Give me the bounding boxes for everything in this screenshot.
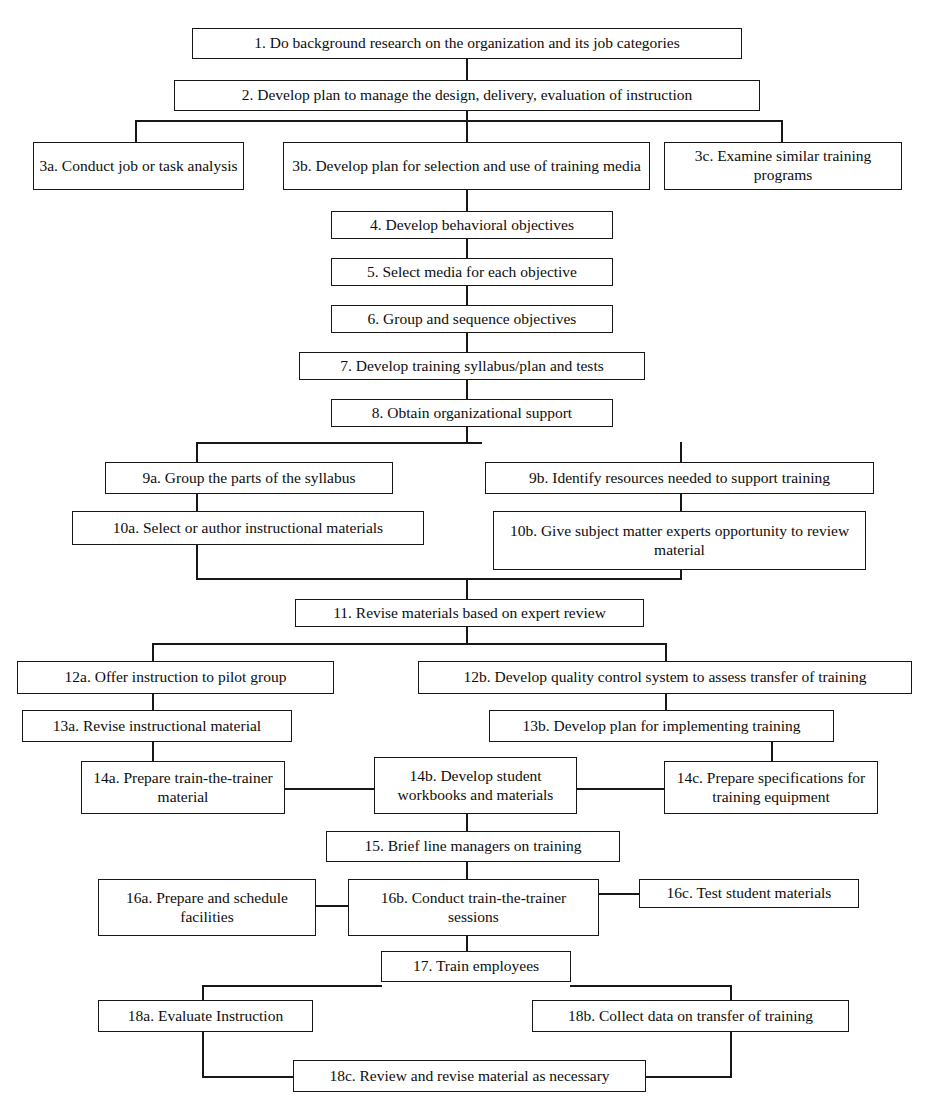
connector-17-left-arm [202, 985, 382, 987]
node-14b-label: 14b. Develop student workbooks and mater… [380, 767, 571, 805]
node-15[interactable]: 15. Brief line managers on training [326, 831, 620, 862]
connector-bus-to-12b [665, 643, 667, 661]
node-15-label: 15. Brief line managers on training [332, 837, 614, 856]
node-18b[interactable]: 18b. Collect data on transfer of trainin… [532, 1000, 849, 1032]
node-14a[interactable]: 14a. Prepare train-the-trainer material [81, 761, 285, 814]
node-10b[interactable]: 10b. Give subject matter experts opportu… [493, 511, 866, 570]
node-16b-label: 16b. Conduct train-the-trainer sessions [354, 889, 593, 927]
connector-3row-bus [135, 120, 783, 122]
node-7-label: 7. Develop training syllabus/plan and te… [305, 357, 639, 376]
connector-14b-to-15 [466, 814, 468, 831]
node-16b[interactable]: 16b. Conduct train-the-trainer sessions [348, 879, 599, 936]
connector-11-drop [466, 627, 468, 643]
node-9a-label: 9a. Group the parts of the syllabus [111, 469, 387, 488]
node-3c-label: 3c. Examine similar training programs [670, 147, 896, 185]
node-14b[interactable]: 14b. Develop student workbooks and mater… [374, 757, 577, 814]
node-18c[interactable]: 18c. Review and revise material as neces… [293, 1060, 646, 1092]
connector-2-drop [466, 110, 468, 120]
node-6[interactable]: 6. Group and sequence objectives [331, 305, 613, 333]
connector-left-to-18c [202, 1076, 293, 1078]
node-18a[interactable]: 18a. Evaluate Instruction [98, 1000, 313, 1032]
node-2[interactable]: 2. Develop plan to manage the design, de… [174, 80, 760, 111]
connector-3b-to-4 [466, 190, 468, 211]
node-9b[interactable]: 9b. Identify resources needed to support… [485, 462, 874, 494]
connector-bus-to-3a [135, 120, 137, 142]
node-9b-label: 9b. Identify resources needed to support… [491, 469, 868, 488]
node-12b[interactable]: 12b. Develop quality control system to a… [418, 661, 912, 694]
node-14c[interactable]: 14c. Prepare specifications for training… [664, 761, 878, 814]
node-2-label: 2. Develop plan to manage the design, de… [180, 86, 754, 105]
connector-bus-to-11 [466, 578, 468, 599]
node-13a[interactable]: 13a. Revise instructional material [22, 710, 292, 742]
connector-15-to-16b [466, 862, 468, 879]
connector-10a-down [196, 545, 198, 578]
node-1-label: 1. Do background research on the organiz… [198, 34, 736, 53]
node-8[interactable]: 8. Obtain organizational support [331, 399, 613, 427]
connector-6-to-7 [466, 332, 468, 352]
connector-bus-to-3b [466, 120, 468, 142]
connector-bus-to-12a [152, 643, 154, 661]
connector-1-to-2 [466, 59, 468, 80]
node-1[interactable]: 1. Do background research on the organiz… [192, 28, 742, 59]
connector-12row-bus [152, 643, 666, 645]
node-3a[interactable]: 3a. Conduct job or task analysis [33, 142, 244, 190]
connector-17-right-arm [570, 985, 731, 987]
node-9a[interactable]: 9a. Group the parts of the syllabus [105, 462, 393, 494]
node-16a[interactable]: 16a. Prepare and schedule facilities [98, 879, 316, 936]
node-16a-label: 16a. Prepare and schedule facilities [104, 889, 310, 927]
node-5-label: 5. Select media for each objective [337, 263, 607, 282]
node-3b-label: 3b. Develop plan for selection and use o… [289, 157, 644, 176]
connector-right-to-18c [645, 1076, 732, 1078]
node-16c[interactable]: 16c. Test student materials [639, 879, 859, 908]
node-18b-label: 18b. Collect data on transfer of trainin… [538, 1007, 843, 1026]
node-3a-label: 3a. Conduct job or task analysis [39, 157, 238, 176]
node-14c-label: 14c. Prepare specifications for training… [670, 769, 872, 807]
node-18a-label: 18a. Evaluate Instruction [104, 1007, 307, 1026]
connector-8-drop [466, 426, 468, 442]
connector-9row-bus [196, 442, 482, 444]
node-7[interactable]: 7. Develop training syllabus/plan and te… [299, 352, 645, 380]
connector-bus-to-9b [680, 442, 682, 462]
connector-13a-to-14a [152, 742, 154, 761]
node-11[interactable]: 11. Revise materials based on expert rev… [295, 599, 644, 627]
node-16c-label: 16c. Test student materials [645, 884, 853, 903]
connector-bus-to-9a [196, 442, 198, 462]
node-12a-label: 12a. Offer instruction to pilot group [23, 668, 328, 687]
node-17[interactable]: 17. Train employees [381, 951, 571, 982]
node-8-label: 8. Obtain organizational support [337, 404, 607, 423]
node-13a-label: 13a. Revise instructional material [28, 717, 286, 736]
flowchart-canvas: 1. Do background research on the organiz… [0, 0, 934, 1104]
node-3c[interactable]: 3c. Examine similar training programs [664, 142, 902, 190]
connector-13b-to-14c [771, 742, 773, 761]
connector-16b-to-16c [598, 893, 640, 895]
connector-12a-to-13a [152, 694, 154, 710]
connector-10b-down [680, 570, 682, 578]
connector-7-to-8 [466, 379, 468, 399]
node-17-label: 17. Train employees [387, 957, 565, 976]
connector-12b-to-13b [665, 694, 667, 710]
connector-14b-to-14c [576, 788, 665, 790]
connector-16a-to-16b [315, 905, 350, 907]
node-4-label: 4. Develop behavioral objectives [337, 216, 607, 235]
node-12b-label: 12b. Develop quality control system to a… [424, 668, 906, 687]
connector-16b-to-17 [466, 936, 468, 951]
connector-bus-to-3c [781, 120, 783, 142]
node-3b[interactable]: 3b. Develop plan for selection and use o… [283, 142, 650, 190]
node-12a[interactable]: 12a. Offer instruction to pilot group [17, 661, 334, 694]
node-5[interactable]: 5. Select media for each objective [331, 258, 613, 286]
node-14a-label: 14a. Prepare train-the-trainer material [87, 769, 279, 807]
node-6-label: 6. Group and sequence objectives [337, 310, 607, 329]
node-18c-label: 18c. Review and revise material as neces… [299, 1067, 640, 1086]
connector-11-merge-bus [196, 578, 682, 580]
node-4[interactable]: 4. Develop behavioral objectives [331, 211, 613, 239]
node-10b-label: 10b. Give subject matter experts opportu… [499, 522, 860, 560]
connector-9b-to-10b [680, 494, 682, 511]
connector-5-to-6 [466, 285, 468, 305]
node-10a-label: 10a. Select or author instructional mate… [78, 519, 418, 538]
node-10a[interactable]: 10a. Select or author instructional mate… [72, 511, 424, 545]
node-11-label: 11. Revise materials based on expert rev… [301, 604, 638, 623]
node-13b[interactable]: 13b. Develop plan for implementing train… [489, 710, 834, 742]
connector-9a-to-10a [196, 494, 198, 511]
node-13b-label: 13b. Develop plan for implementing train… [495, 717, 828, 736]
connector-4-to-5 [466, 238, 468, 258]
